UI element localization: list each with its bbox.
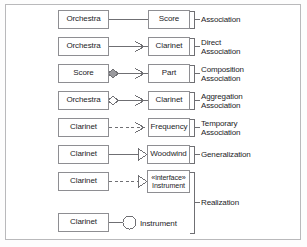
hollow-triangle-realization xyxy=(138,176,147,188)
lollipop-circle-instrument xyxy=(123,216,136,229)
class-box-source-realization-interface[interactable]: Clarinet xyxy=(58,172,109,191)
bracket-composition-association xyxy=(190,65,194,82)
class-box-target-composition-association[interactable]: Part xyxy=(148,64,190,83)
class-box-source-direct-association[interactable]: Orchestra xyxy=(58,37,109,56)
class-box-source-aggregation-association[interactable]: Orchestra xyxy=(58,91,109,110)
relation-label-direct-association: Direct Association xyxy=(201,38,240,56)
relation-label-aggregation-association: Aggregation Association xyxy=(201,92,243,110)
class-box-target-temporary-association[interactable]: Frequency xyxy=(148,118,190,137)
class-box-source-association[interactable]: Orchestra xyxy=(58,10,109,29)
bracket-temporary-association xyxy=(190,119,194,136)
lollipop-interface-label: Instrument xyxy=(140,219,177,228)
relation-label-composition-association: Composition Association xyxy=(201,65,244,83)
relation-label-generalization: Generalization xyxy=(201,150,251,159)
hollow-triangle-generalization xyxy=(138,149,147,161)
class-box-target-direct-association[interactable]: Clarinet xyxy=(148,37,190,56)
hollow-diamond-aggregation xyxy=(108,96,118,105)
bracket-realization xyxy=(190,172,194,233)
filled-diamond-composition xyxy=(108,69,118,78)
bracket-direct-association xyxy=(190,38,194,55)
bracket-association xyxy=(190,11,194,28)
class-box-target-realization-interface[interactable]: «interface» Instrument xyxy=(147,170,190,193)
class-box-source-composition-association[interactable]: Score xyxy=(58,64,109,83)
interface-name-label: Instrument xyxy=(152,182,185,190)
class-box-target-generalization[interactable]: Woodwind xyxy=(147,145,190,164)
class-box-source-realization-lollipop[interactable]: Clarinet xyxy=(58,213,109,232)
relation-label-realization: Realization xyxy=(201,198,239,207)
class-box-target-association[interactable]: Score xyxy=(148,10,190,29)
class-box-source-generalization[interactable]: Clarinet xyxy=(58,145,109,164)
relation-label-temporary-association: Temporary Association xyxy=(201,119,240,137)
relation-label-association: Association xyxy=(201,15,240,24)
uml-notation-diagram: Orchestra Score Association Orchestra Cl… xyxy=(0,0,307,247)
bracket-aggregation-association xyxy=(190,92,194,109)
class-box-target-aggregation-association[interactable]: Clarinet xyxy=(148,91,190,110)
bracket-generalization xyxy=(190,146,194,163)
class-box-source-temporary-association[interactable]: Clarinet xyxy=(58,118,109,137)
